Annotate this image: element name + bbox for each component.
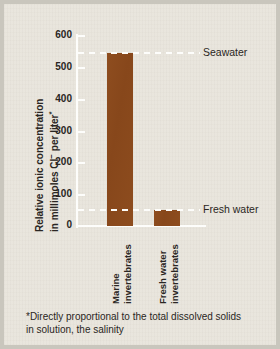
x-axis-line (76, 225, 206, 227)
bar-chart: 600 500 400 300 200 100 0 Relative ionic… (4, 4, 276, 345)
bar-fresh-water-invertebrates (154, 210, 180, 226)
footnote-line2: in solution, the salinity (26, 323, 268, 336)
bar-fill (154, 210, 180, 226)
y-tick-0 (78, 225, 85, 227)
reference-line-seawater (78, 52, 200, 54)
y-axis-title: Relative ionic concentration in millimol… (34, 99, 61, 232)
footnote-line1: *Directly proportional to the total diss… (26, 310, 268, 323)
y-tick-400 (78, 99, 85, 101)
footnote: *Directly proportional to the total diss… (26, 310, 268, 336)
annotation-seawater: Seawater (203, 47, 247, 58)
y-tick-label-500: 500 (42, 62, 72, 72)
y-tick-100 (78, 194, 85, 196)
reference-line-freshwater (78, 209, 200, 211)
chloride-superscript: − (47, 154, 56, 159)
category-label-marine-line2: invertebrates (122, 244, 133, 304)
y-tick-label-600: 600 (42, 30, 72, 40)
bar-fill (107, 53, 133, 226)
y-tick-300 (78, 131, 85, 133)
footnote-marker: * (47, 111, 56, 114)
bar-marine-invertebrates (107, 53, 133, 226)
y-tick-200 (78, 162, 85, 164)
y-tick-600 (78, 35, 85, 37)
category-label-marine-line1: Marine (110, 273, 121, 304)
y-axis-title-line1: Relative ionic concentration (34, 99, 45, 232)
figure-card: 600 500 400 300 200 100 0 Relative ionic… (4, 4, 276, 345)
category-label-freshwater-line2: invertebrates (169, 244, 180, 304)
category-label-freshwater-line1: Fresh water (157, 251, 168, 304)
annotation-fresh-water: Fresh water (203, 204, 258, 215)
y-tick-500 (78, 67, 85, 69)
y-axis-title-line2: in millimoles Cl− per liter* (46, 99, 61, 232)
